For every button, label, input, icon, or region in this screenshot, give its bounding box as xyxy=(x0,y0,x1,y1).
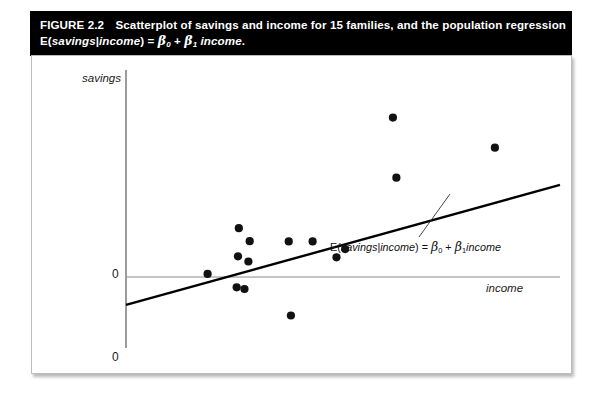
figure-title-line-1: FIGURE 2.2 Scatterplot of savings and in… xyxy=(40,17,563,33)
title-formula-var-income-2: income xyxy=(201,34,242,47)
title-formula-close: ) xyxy=(140,34,144,47)
figure-title-text: Scatterplot of savings and income for 15… xyxy=(115,18,566,31)
title-formula-beta0-sub: 0 xyxy=(166,40,171,49)
y-axis-zero-tick-label: 0 xyxy=(112,267,119,281)
figure-number: FIGURE 2.2 xyxy=(40,18,104,31)
title-formula-equals: = xyxy=(148,34,155,47)
x-axis-origin-label: 0 xyxy=(112,350,119,364)
annotation-var-income: income xyxy=(380,241,415,253)
annotation-prefix: E( xyxy=(330,241,341,253)
annotation-var-savings: savings xyxy=(341,241,378,253)
title-formula-plus: + xyxy=(174,34,181,47)
figure-title-line-2: E(savings|income) = β0 + β1 income. xyxy=(40,33,563,53)
annotation-close: ) xyxy=(415,241,419,253)
annotation-var-income-2: income xyxy=(466,241,501,253)
title-formula-var-savings: savings xyxy=(52,34,96,47)
annotation-beta1: β xyxy=(455,239,462,254)
title-formula-beta1-sub: 1 xyxy=(193,40,198,49)
title-formula-var-income: income xyxy=(99,34,140,47)
annotation-beta0-sub: 0 xyxy=(438,246,442,255)
annotation-plus: + xyxy=(445,241,451,253)
regression-line-annotation: E(savings|income) = β0 + β1income xyxy=(330,239,501,255)
y-axis-label: savings xyxy=(82,72,121,84)
title-formula-beta0: β xyxy=(158,33,166,48)
figure-container: FIGURE 2.2 Scatterplot of savings and in… xyxy=(0,0,598,394)
figure-title-bar: FIGURE 2.2 Scatterplot of savings and in… xyxy=(30,11,572,56)
title-formula-prefix: E( xyxy=(40,34,52,47)
annotation-equals: = xyxy=(422,241,428,253)
title-formula-period: . xyxy=(242,34,245,47)
title-formula-beta1: β xyxy=(184,33,192,48)
x-axis-label: income xyxy=(486,282,523,294)
plot-frame xyxy=(31,55,572,374)
